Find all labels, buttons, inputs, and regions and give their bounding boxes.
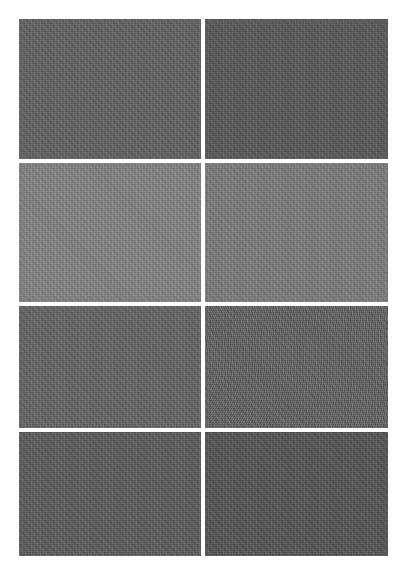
texture-swatch-r2c2	[205, 163, 388, 302]
texture-swatch-r1c2	[205, 19, 388, 159]
texture-swatch-r4c1	[19, 432, 201, 556]
texture-swatch-r2c1	[19, 163, 201, 302]
texture-swatch-r4c2	[205, 432, 388, 556]
texture-swatch-r1c1	[19, 19, 201, 159]
texture-swatch-r3c1	[19, 306, 201, 428]
texture-swatch-r3c2	[205, 306, 388, 428]
texture-swatch-grid	[19, 19, 388, 556]
